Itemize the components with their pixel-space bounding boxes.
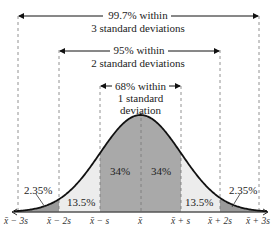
region-right-tail: 2.35% xyxy=(229,184,257,196)
region-left-tail: 2.35% xyxy=(24,184,52,196)
tick-plus-s: x̄ + s xyxy=(171,216,190,226)
bracket-3sd-line1: 99.7% within xyxy=(103,9,173,21)
region-left-one: 34% xyxy=(110,165,130,177)
bracket-1sd-line3: deviation xyxy=(112,104,169,116)
bracket-2sd-line2: 2 standard deviations xyxy=(88,57,188,69)
tick-minus-3s: x̄ − 3s xyxy=(4,216,28,226)
bracket-2sd-line1: 95% within xyxy=(110,44,168,56)
region-right-one: 34% xyxy=(151,165,171,177)
region-left-two: 13.5% xyxy=(67,196,95,208)
tick-minus-s: x̄ − s xyxy=(90,216,109,226)
region-right-two: 13.5% xyxy=(185,196,213,208)
empirical-rule-diagram: 99.7% within 3 standard deviations 95% w… xyxy=(0,0,275,232)
bell-curve-graphic xyxy=(0,0,275,232)
tick-plus-3s: x̄ + 3s xyxy=(246,216,270,226)
bracket-1sd-line2: 1 standard xyxy=(112,92,169,104)
tick-plus-2s: x̄ + 2s xyxy=(208,216,232,226)
bracket-1sd-line1: 68% within xyxy=(112,80,169,92)
tick-mean: x̄ xyxy=(138,216,142,226)
bracket-3sd-line2: 3 standard deviations xyxy=(88,22,188,34)
tick-minus-2s: x̄ − 2s xyxy=(47,216,71,226)
